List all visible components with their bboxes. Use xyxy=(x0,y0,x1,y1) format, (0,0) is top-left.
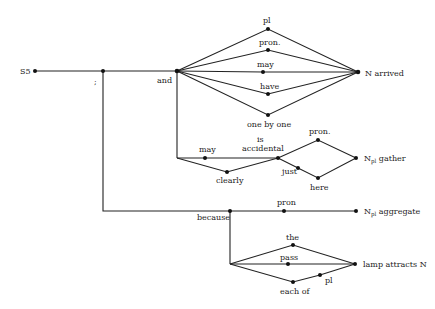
label-pron3: pron xyxy=(277,198,296,207)
node-pl xyxy=(266,27,270,31)
label-here: here xyxy=(310,183,329,192)
node-each-of xyxy=(291,280,295,284)
label-just: just xyxy=(281,167,298,176)
label-accidental: accidental xyxy=(242,144,284,153)
node-may xyxy=(261,70,265,74)
label-pron: pron. xyxy=(259,38,280,47)
node-and xyxy=(175,69,180,74)
node-lamp-attracts-n xyxy=(353,262,357,266)
label-s5: S5 xyxy=(20,67,31,76)
node-here xyxy=(316,176,320,180)
node-have xyxy=(266,92,270,96)
edge-clearly xyxy=(177,158,278,172)
node-n-arrived xyxy=(356,70,361,75)
label-and: and xyxy=(157,76,172,85)
node-may2 xyxy=(203,156,207,160)
edge-each-of xyxy=(230,264,355,282)
edges xyxy=(35,29,358,282)
label-semicolon: ; xyxy=(94,77,97,86)
label-n-gather: Npl gather xyxy=(364,154,406,165)
node-n-aggregate xyxy=(354,209,358,213)
label-may: may xyxy=(257,60,274,69)
node-is-accidental xyxy=(276,156,280,160)
edge-semi-because xyxy=(103,71,230,211)
label-pron2: pron. xyxy=(309,127,330,136)
label-clearly: clearly xyxy=(216,176,244,185)
label-each-of: each of xyxy=(280,287,310,296)
label-because: because xyxy=(197,213,230,222)
node-s5 xyxy=(33,69,37,73)
label-pl: pl xyxy=(263,16,271,25)
nodes xyxy=(33,27,360,284)
labels: S5 ; and pl pron. may have one by one N … xyxy=(20,16,427,296)
label-pass: pass xyxy=(280,253,298,262)
node-one-by-one xyxy=(266,113,270,117)
node-pass xyxy=(286,262,290,266)
node-n-gather xyxy=(354,156,358,160)
label-n-arrived: N arrived xyxy=(365,69,404,78)
label-n-aggregate: Npl aggregate xyxy=(364,207,421,218)
label-is: is xyxy=(257,135,264,144)
node-clearly xyxy=(225,170,229,174)
node-pron2 xyxy=(316,138,320,142)
label-the: the xyxy=(286,233,299,242)
node-the xyxy=(291,243,295,247)
sentence-network-diagram: S5 ; and pl pron. may have one by one N … xyxy=(0,0,435,309)
label-may2: may xyxy=(199,145,216,154)
label-one-by-one: one by one xyxy=(247,120,291,129)
label-pl2: pl xyxy=(325,276,333,285)
node-semicolon xyxy=(101,69,105,73)
node-pl2 xyxy=(318,273,322,277)
edge-may xyxy=(177,71,358,72)
edge-pron2 xyxy=(278,140,356,158)
node-pron xyxy=(266,48,270,52)
node-pron3 xyxy=(282,209,286,213)
label-lamp-attracts-n: lamp attracts N xyxy=(363,260,427,269)
label-have: have xyxy=(260,82,279,91)
